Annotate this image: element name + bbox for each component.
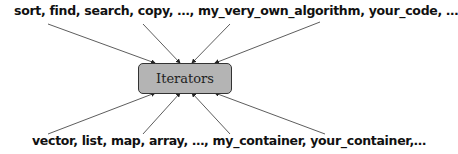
arrow-algorithms-0 <box>48 24 155 63</box>
containers-label: vector, list, map, array, …, my_containe… <box>32 133 426 148</box>
arrow-algorithms-2 <box>192 24 230 63</box>
arrow-containers-6 <box>192 93 230 134</box>
arrow-containers-7 <box>215 93 325 134</box>
iterators-box: Iterators <box>138 63 232 94</box>
iterators-label: Iterators <box>156 71 214 86</box>
arrow-algorithms-3 <box>215 22 320 63</box>
arrow-containers-5 <box>143 93 180 134</box>
arrow-algorithms-1 <box>143 24 180 63</box>
arrow-containers-4 <box>48 93 155 134</box>
